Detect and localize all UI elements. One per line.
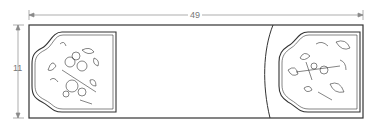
right-motif-panel [279,32,360,112]
height-dimension-label: 11 [11,63,24,73]
left-motif-panel [32,32,116,112]
pattern-outline [29,25,363,118]
fold-curve [265,25,273,118]
pattern-diagram [0,0,371,127]
right-floral-motif [288,41,350,100]
left-floral-motif [48,42,99,104]
width-dimension-label: 49 [188,10,202,20]
